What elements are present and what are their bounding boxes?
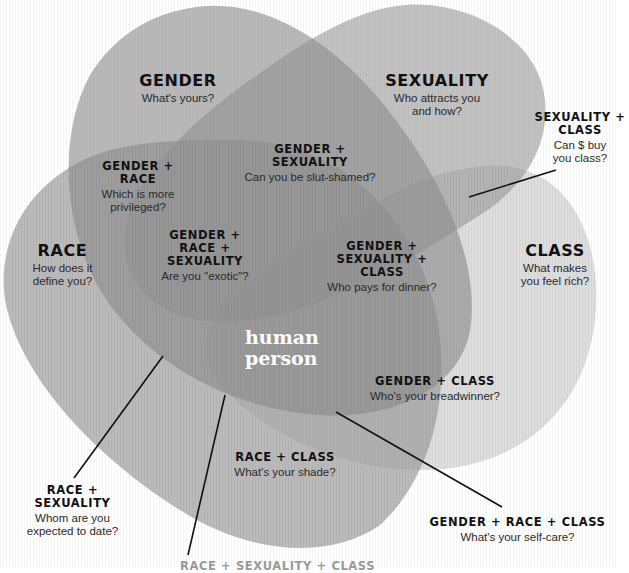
race-sexuality-class-title: RACE + SEXUALITY + CLASS — [180, 560, 380, 573]
gender-class-question: Who's your breadwinner? — [365, 390, 505, 403]
race-sexuality-label: RACE + SEXUALITY Whom are you expected t… — [20, 484, 125, 538]
class-question-1: What makes — [505, 262, 605, 275]
gender-label: GENDER What's yours? — [118, 72, 238, 105]
gender-sexuality-question: Can you be slut-shamed? — [235, 171, 385, 184]
race-class-label: RACE + CLASS What's your shade? — [225, 451, 345, 479]
race-question-1: How does it — [20, 262, 105, 275]
class-title: CLASS — [505, 242, 605, 260]
sexuality-class-label: SEXUALITY + CLASS Can $ buy you class? — [530, 111, 629, 165]
gender-race-sexuality-title-3: SEXUALITY — [150, 255, 260, 268]
class-question-2: you feel rich? — [505, 275, 605, 288]
race-sexuality-question-1: Whom are you — [20, 512, 125, 525]
sexuality-class-title-2: CLASS — [530, 124, 629, 137]
gender-question: What's yours? — [118, 92, 238, 105]
sexuality-label: SEXUALITY Who attracts you and how? — [372, 72, 502, 118]
race-sexuality-question-2: expected to date? — [20, 525, 125, 538]
gender-race-question-2: privileged? — [88, 201, 188, 214]
gender-race-sexuality-title-2: RACE + — [150, 242, 260, 255]
gender-sexuality-class-title-2: SEXUALITY + — [322, 253, 442, 266]
sexuality-class-question-2: you class? — [530, 152, 629, 165]
gender-race-sexuality-title-1: GENDER + — [150, 229, 260, 242]
sexuality-question-2: and how? — [372, 105, 502, 118]
sexuality-class-title-1: SEXUALITY + — [530, 111, 629, 124]
gender-sexuality-title-2: SEXUALITY — [235, 156, 385, 169]
gender-sexuality-label: GENDER + SEXUALITY Can you be slut-shame… — [235, 143, 385, 184]
gender-sexuality-class-title-1: GENDER + — [322, 240, 442, 253]
race-class-title: RACE + CLASS — [225, 451, 345, 464]
gender-title: GENDER — [118, 72, 238, 90]
center-line-1: human — [245, 327, 319, 348]
gender-race-class-label: GENDER + RACE + CLASS What's your self-c… — [425, 516, 610, 544]
gender-race-class-question: What's your self-care? — [425, 531, 610, 544]
sexuality-class-question-1: Can $ buy — [530, 139, 629, 152]
race-title: RACE — [20, 242, 105, 260]
gender-sexuality-class-title-3: CLASS — [322, 266, 442, 279]
gender-race-title-2: RACE — [88, 173, 188, 186]
gender-class-label: GENDER + CLASS Who's your breadwinner? — [365, 375, 505, 403]
race-sexuality-title-1: RACE + — [20, 484, 125, 497]
center-line-2: person — [245, 348, 319, 369]
race-sexuality-class-label: RACE + SEXUALITY + CLASS — [180, 560, 380, 573]
gender-race-title-1: GENDER + — [88, 160, 188, 173]
gender-sexuality-class-question: Who pays for dinner? — [322, 281, 442, 294]
sexuality-question-1: Who attracts you — [372, 92, 502, 105]
gender-class-title: GENDER + CLASS — [365, 375, 505, 388]
race-label: RACE How does it define you? — [20, 242, 105, 288]
race-question-2: define you? — [20, 275, 105, 288]
gender-race-class-title: GENDER + RACE + CLASS — [425, 516, 610, 529]
gender-race-question-1: Which is more — [88, 188, 188, 201]
gender-race-label: GENDER + RACE Which is more privileged? — [88, 160, 188, 214]
gender-race-sexuality-question: Are you "exotic"? — [150, 270, 260, 283]
race-class-question: What's your shade? — [225, 466, 345, 479]
race-sexuality-title-2: SEXUALITY — [20, 497, 125, 510]
gender-sexuality-title-1: GENDER + — [235, 143, 385, 156]
gender-sexuality-class-label: GENDER + SEXUALITY + CLASS Who pays for … — [322, 240, 442, 294]
sexuality-title: SEXUALITY — [372, 72, 502, 90]
center-label: human person — [245, 327, 319, 369]
class-label: CLASS What makes you feel rich? — [505, 242, 605, 288]
gender-race-sexuality-label: GENDER + RACE + SEXUALITY Are you "exoti… — [150, 229, 260, 283]
